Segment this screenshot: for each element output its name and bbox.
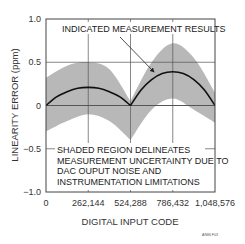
- annotation-line: DAC OUPUT NOISE AND: [57, 166, 162, 176]
- annotation-line: INSTRUMENTATION LIMITATIONS: [57, 177, 200, 187]
- x-tick-label: 786,432: [156, 198, 189, 208]
- figure-footnote: AN86 F03: [202, 233, 218, 237]
- annotation-top: INDICATED MEASUREMENT RESULTS: [62, 24, 226, 34]
- x-tick-label: 1,048,576: [195, 198, 235, 208]
- y-tick-label: 1.0: [28, 14, 41, 24]
- y-tick-label: −0.5: [23, 144, 41, 154]
- x-tick-labels: 0262,144524,288786,4321,048,576: [43, 198, 235, 208]
- y-tick-label: 0: [36, 101, 41, 111]
- y-tick-label: −1.0: [23, 187, 41, 197]
- x-tick-label: 0: [43, 198, 48, 208]
- annotation-arrow: [120, 37, 154, 72]
- y-axis-label: LINEARITY ERROR (ppm): [9, 48, 20, 161]
- annotation-line: SHADED REGION DELINEATES: [57, 145, 190, 155]
- y-tick-labels: 1.00.50−0.5−1.0: [23, 14, 41, 197]
- y-tick-label: 0.5: [28, 57, 41, 67]
- x-tick-label: 524,288: [114, 198, 147, 208]
- annotation-line: MEASUREMENT UNCERTAINTY DUE TO: [57, 156, 229, 166]
- linearity-error-chart: 1.00.50−0.5−1.0 0262,144524,288786,4321,…: [0, 0, 245, 244]
- x-tick-label: 262,144: [72, 198, 105, 208]
- x-axis-label: DIGITAL INPUT CODE: [82, 216, 179, 227]
